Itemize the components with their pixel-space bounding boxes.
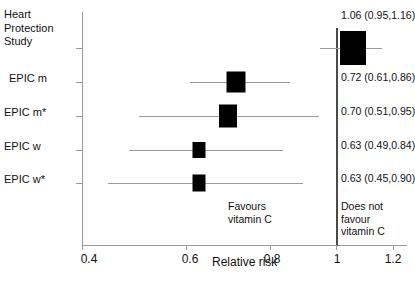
study-label: Heart Protection Study: [4, 8, 54, 49]
x-axis-tick: [186, 245, 187, 250]
y-axis-tick: [76, 150, 83, 151]
x-axis-tick-label: 0.6: [182, 252, 199, 266]
effect-estimate-box: [219, 105, 237, 128]
null-reference-line: [336, 28, 338, 246]
estimate-label: 1.06 (0.95,1.16): [341, 9, 415, 21]
y-axis-line: [82, 12, 83, 245]
x-axis-tick: [82, 245, 83, 250]
estimate-label: 0.63 (0.49,0.84): [341, 139, 415, 151]
confidence-interval-line: [108, 183, 303, 184]
y-axis-tick: [76, 48, 83, 49]
estimate-label: 0.63 (0.45,0.90): [341, 172, 415, 184]
x-axis-tick: [270, 245, 271, 250]
x-axis-tick-label: 1: [334, 252, 341, 266]
effect-estimate-box: [227, 72, 246, 93]
y-axis-tick: [76, 183, 83, 184]
study-label: EPIC w: [4, 140, 41, 154]
x-axis-tick-label: 1.2: [385, 252, 402, 266]
study-label: EPIC m: [9, 72, 47, 86]
y-axis-tick: [76, 82, 83, 83]
favours-annotation: Favours vitamin C: [228, 200, 272, 225]
x-axis-tick: [393, 245, 394, 250]
estimate-label: 0.72 (0.61,0.86): [341, 71, 415, 83]
x-axis-line: [82, 245, 407, 246]
x-axis-title: Relative risk: [212, 255, 277, 269]
y-axis-tick: [76, 116, 83, 117]
confidence-interval-line: [129, 150, 283, 151]
effect-estimate-box: [192, 142, 205, 158]
x-axis-tick: [336, 245, 337, 250]
x-axis-tick-label: 0.4: [81, 252, 98, 266]
estimate-label: 0.70 (0.51,0.95): [341, 105, 415, 117]
study-label: EPIC w*: [4, 173, 45, 187]
effect-estimate-box: [340, 31, 366, 65]
effect-estimate-box: [192, 175, 205, 192]
does-not-favour-annotation: Does not favour vitamin C: [341, 200, 415, 238]
study-label: EPIC m*: [4, 106, 46, 120]
forest-plot: Heart Protection Study EPIC m EPIC m* EP…: [0, 0, 415, 281]
